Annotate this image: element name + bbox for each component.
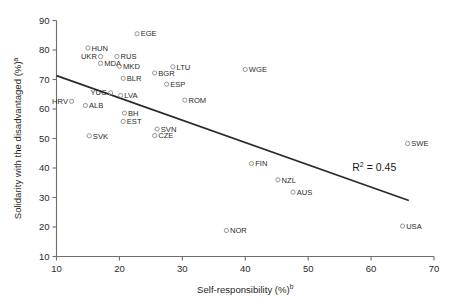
scatter-chart-figure: 10203040506070809010203040506070EGEHUNUK… [0, 0, 454, 308]
point-marker [400, 224, 404, 228]
point-marker [98, 54, 102, 58]
y-tick-label: 70 [39, 74, 50, 85]
y-tick-label: 40 [39, 162, 50, 173]
point-marker [70, 99, 74, 103]
point-marker [291, 190, 295, 194]
scatter-point: NZL [276, 176, 296, 185]
point-label: MKD [123, 62, 140, 71]
scatter-point: YUG [91, 88, 113, 97]
y-tick-label: 60 [39, 103, 50, 114]
scatter-point: HRV [52, 97, 74, 106]
point-label: NOR [230, 226, 247, 235]
scatter-point: WGE [243, 65, 267, 74]
x-tick-label: 30 [177, 263, 188, 274]
x-tick-label: 60 [366, 263, 377, 274]
point-label: USA [406, 222, 423, 231]
scatter-point: ROM [183, 96, 206, 105]
point-label: RUS [121, 52, 137, 61]
point-marker [121, 119, 125, 123]
scatter-point: CZE [153, 131, 174, 140]
scatter-point: EST [121, 117, 142, 126]
scatter-point: SWE [405, 139, 428, 148]
point-marker [115, 54, 119, 58]
scatter-point: SVK [87, 132, 108, 141]
point-marker [87, 134, 91, 138]
x-tick-label: 20 [114, 263, 125, 274]
scatter-point: MDA [98, 59, 122, 68]
point-label: ALB [89, 101, 103, 110]
point-marker [86, 46, 90, 50]
point-label: MDA [104, 59, 122, 68]
r2-value: = 0.45 [364, 161, 397, 173]
scatter-point: NOR [224, 226, 247, 235]
y-tick-label: 20 [39, 221, 50, 232]
point-marker [98, 61, 102, 65]
y-tick-label: 50 [39, 133, 50, 144]
scatter-point: FIN [249, 159, 267, 168]
point-marker [165, 82, 169, 86]
point-marker [183, 98, 187, 102]
point-marker [153, 133, 157, 137]
x-tick-label: 50 [303, 263, 314, 274]
y-axis-title: Solidarity with the disadvantaged (%)a [12, 57, 23, 219]
point-marker [119, 93, 123, 97]
x-tick-label: 40 [240, 263, 251, 274]
point-marker [153, 71, 157, 75]
point-label: FIN [255, 159, 267, 168]
point-label: UKR [81, 52, 98, 61]
point-label: LVA [124, 91, 138, 100]
r2-annotation: R2 = 0.45 [352, 160, 396, 173]
scatter-point: EGE [135, 29, 157, 38]
point-marker [121, 76, 125, 80]
point-label: EST [127, 117, 142, 126]
x-tick-label: 70 [429, 263, 440, 274]
point-marker [405, 141, 409, 145]
point-marker [83, 103, 87, 107]
scatter-point: BLR [121, 74, 142, 83]
scatter-point: UKR [81, 52, 103, 61]
point-marker [135, 32, 139, 36]
point-label: HRV [52, 97, 69, 106]
y-tick-label: 90 [39, 15, 50, 26]
point-label: BGR [158, 69, 175, 78]
point-marker [249, 161, 253, 165]
scatter-point: ESP [165, 80, 186, 89]
point-marker [224, 228, 228, 232]
scatter-point: AUS [291, 188, 312, 197]
scatter-point: BGR [153, 69, 176, 78]
x-axis-title-superscript: b [290, 283, 294, 290]
point-marker [122, 111, 126, 115]
point-label: NZL [282, 176, 296, 185]
point-label: WGE [249, 65, 267, 74]
point-label: BLR [127, 74, 142, 83]
x-axis-title: Self-responsibility (%)b [197, 283, 294, 294]
point-label: SVK [93, 132, 108, 141]
point-label: SWE [411, 139, 428, 148]
y-axis-title-superscript: a [12, 57, 19, 61]
y-tick-label: 80 [39, 44, 50, 55]
point-label: EGE [141, 29, 157, 38]
y-tick-label: 30 [39, 192, 50, 203]
chart-canvas: 10203040506070809010203040506070EGEHUNUK… [0, 0, 454, 308]
point-label: LTU [176, 63, 190, 72]
x-tick-label: 10 [51, 263, 62, 274]
point-label: ESP [170, 80, 185, 89]
point-label: CZE [158, 131, 173, 140]
point-label: ROM [188, 96, 206, 105]
y-tick-label: 10 [39, 251, 50, 262]
point-marker [276, 178, 280, 182]
point-marker [243, 67, 247, 71]
scatter-point: USA [400, 222, 422, 231]
point-label: YUG [91, 88, 108, 97]
scatter-point: ALB [83, 101, 103, 110]
point-label: AUS [297, 188, 313, 197]
